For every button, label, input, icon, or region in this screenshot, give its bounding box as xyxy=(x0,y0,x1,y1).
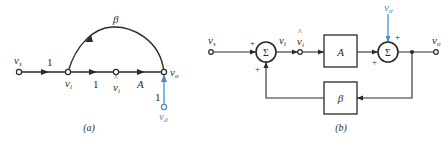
arrow-right-icon xyxy=(250,50,256,55)
arrow-right-icon xyxy=(372,50,378,55)
gain-amp: A xyxy=(136,78,144,90)
arrow-right-icon xyxy=(318,50,324,55)
sign-sum2-left: + xyxy=(372,57,377,67)
panel-b-block-diagram: Σ + + Σ + + A β vs vi ^ vi vo vd (b) xyxy=(208,1,441,134)
sigma-icon: Σ xyxy=(263,47,269,58)
node-source xyxy=(16,69,21,74)
node-disturbance xyxy=(161,104,166,109)
arrow-left-icon xyxy=(357,96,363,101)
label-output: vo xyxy=(170,66,179,80)
label-error: vi xyxy=(65,77,72,91)
gain-disturbance: 1 xyxy=(155,91,161,103)
sign-sum2-top: + xyxy=(395,32,400,42)
label-amp-input: vi xyxy=(113,81,120,95)
terminal-source xyxy=(209,50,214,55)
summing-junction-2: Σ xyxy=(378,42,398,62)
junction-dot xyxy=(410,50,414,54)
label-disturbance: vd xyxy=(159,110,168,124)
gain-feedback: β xyxy=(112,13,119,25)
arrow-right-icon xyxy=(89,69,97,75)
label-source: vs xyxy=(208,34,216,48)
block-forward-A-label: A xyxy=(336,46,344,58)
label-output: vo xyxy=(432,34,441,48)
gain-source-to-error: 1 xyxy=(47,56,53,68)
node-error xyxy=(65,69,70,74)
terminal-amp-input xyxy=(298,50,303,55)
arrow-down-icon xyxy=(386,36,391,42)
label-disturbance: vd xyxy=(384,1,393,15)
sign-sum1-left: + xyxy=(250,38,255,48)
label-amp-input: vi xyxy=(297,35,304,49)
feedback-diagrams: vs 1 vi 1 ^ vi A β vo 1 vd (a) xyxy=(0,0,448,148)
wire-beta-to-sum1 xyxy=(266,62,324,98)
sign-sum1-bottom: + xyxy=(255,64,260,74)
caption-a: (a) xyxy=(83,122,95,134)
block-feedback-beta-label: β xyxy=(337,92,344,104)
sigma-icon: Σ xyxy=(385,47,391,58)
gain-error-to-amp-input: 1 xyxy=(93,78,99,90)
label-source: vs xyxy=(14,54,22,68)
arrow-right-icon xyxy=(137,69,145,75)
terminal-output xyxy=(434,50,439,55)
caption-b: (b) xyxy=(335,122,347,134)
panel-a-signal-flow-graph: vs 1 vi 1 ^ vi A β vo 1 vd (a) xyxy=(14,13,179,134)
node-output xyxy=(161,69,166,74)
label-error: vi xyxy=(279,34,286,48)
arrow-up-icon xyxy=(264,62,269,68)
arrow-right-icon xyxy=(41,69,49,75)
summing-junction-1: Σ xyxy=(256,42,276,62)
branch-feedback-arc xyxy=(68,27,164,72)
